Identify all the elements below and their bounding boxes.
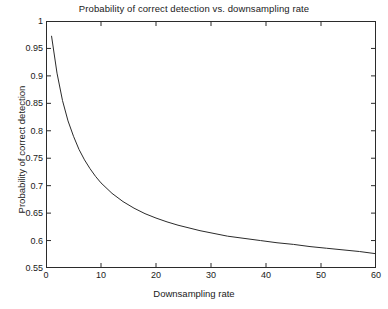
figure: Probability of correct detection vs. dow… [0,0,388,309]
x-tick-label: 30 [191,270,231,280]
x-tick-label: 0 [26,270,66,280]
data-series-line [52,36,377,254]
x-tick-label: 60 [356,270,388,280]
y-tick-label: 1 [0,16,43,26]
axis-ticks [46,21,376,268]
plot-area [46,21,376,268]
plot-canvas [46,21,376,268]
chart-title: Probability of correct detection vs. dow… [0,3,388,14]
y-tick-label: 0.55 [0,263,43,273]
y-axis-label: Probability of correct detection [16,35,27,265]
x-tick-label: 20 [136,270,176,280]
x-tick-label: 50 [301,270,341,280]
x-axis-label: Downsampling rate [0,288,388,299]
x-tick-label: 40 [246,270,286,280]
x-tick-label: 10 [81,270,121,280]
